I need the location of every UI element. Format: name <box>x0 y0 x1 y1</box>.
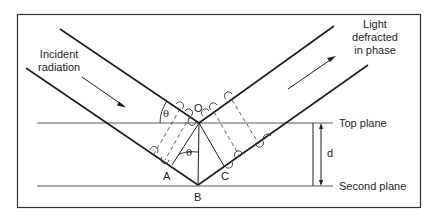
diffracted-label-line1: Light <box>344 18 406 31</box>
theta-lower-label: θ <box>186 146 192 159</box>
d-arrowhead-up <box>319 123 323 129</box>
diffracted-label-line2: defracted <box>344 31 406 44</box>
incident-ray-upper <box>60 29 199 123</box>
d-arrowhead-down <box>319 180 323 186</box>
incident-arrow <box>82 77 124 106</box>
incident-radiation-label: Incident radiation <box>38 48 80 74</box>
diffracted-light-label: Light defracted in phase <box>344 18 406 57</box>
point-o-label: O <box>194 102 203 115</box>
normal-ob <box>198 123 199 185</box>
second-plane-label: Second plane <box>339 180 406 193</box>
diffracted-arrow <box>288 58 333 89</box>
wavefront-dashed <box>214 112 240 157</box>
spacing-d-label: d <box>327 147 333 160</box>
point-a-label: A <box>163 170 170 183</box>
incident-label-line1: Incident <box>38 48 80 61</box>
incident-ray-lower <box>26 68 198 185</box>
line-oc <box>199 123 224 166</box>
diffracted-ray-upper <box>199 26 334 123</box>
point-c-label: C <box>221 170 229 183</box>
top-plane-label: Top plane <box>339 117 387 130</box>
incident-label-line2: radiation <box>38 61 80 74</box>
theta-upper-label: θ <box>163 107 169 120</box>
point-b-label: B <box>194 191 201 204</box>
wavefront-dashed <box>232 100 259 144</box>
diffracted-label-line3: in phase <box>344 44 406 57</box>
